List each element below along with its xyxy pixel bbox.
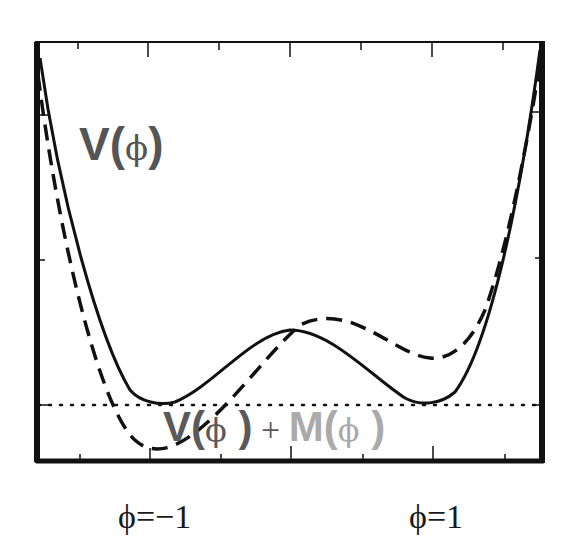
- sum-close-paren-1: ): [227, 403, 253, 450]
- sum-phi-1: ϕ: [205, 411, 227, 449]
- sum-plus: +: [252, 411, 288, 448]
- v-curve-solid: [40, 50, 540, 404]
- sum-v-letter: V: [163, 403, 191, 450]
- v-phi-label: V(ϕ): [79, 118, 164, 170]
- x-axis-ticks-top: [78, 42, 503, 57]
- x-label-phi-minus-one: ϕ=−1: [118, 500, 191, 534]
- potential-plot: V(ϕ) V(ϕ ) + M(ϕ ): [0, 0, 580, 551]
- v-plus-m-label: V(ϕ ) + M(ϕ ): [163, 403, 385, 450]
- v-label-open-paren: (: [110, 118, 126, 170]
- sum-open-paren-1: (: [191, 403, 205, 450]
- v-label-phi: ϕ: [125, 128, 148, 168]
- sum-close-paren-2: ): [359, 403, 385, 450]
- x-label-phi-one: ϕ=1: [409, 500, 463, 534]
- v-label-close-paren: ): [148, 118, 163, 170]
- v-plus-m-curve-dashed: [38, 45, 543, 449]
- sum-m-letter: M: [289, 403, 324, 450]
- sum-open-paren-2: (: [324, 403, 338, 450]
- sum-phi-2: ϕ: [338, 411, 360, 449]
- v-label-letter: V: [79, 118, 110, 170]
